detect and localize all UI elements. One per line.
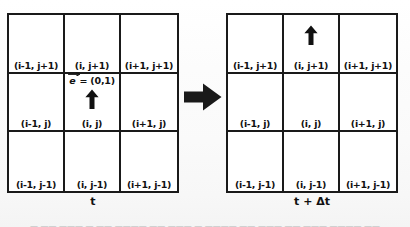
lattice-cell[interactable]: (i+1, j) (121, 74, 177, 133)
cell-label: (i-1, j-1) (228, 179, 282, 190)
cell-label: (i-1, j) (9, 118, 63, 129)
time-caption-after: t + Δt (226, 195, 398, 208)
lattice-cell[interactable]: (i-1, j-1) (9, 132, 65, 191)
lattice-cell[interactable]: (i+1, j+1) (340, 15, 396, 74)
lattice-cell[interactable]: (i+1, j) (340, 74, 396, 133)
cell-label: (i+1, j-1) (121, 179, 177, 190)
lattice-grid-after: (i-1, j+1) (i, j+1) (i+1, j+1) (i-1, j) … (226, 13, 398, 193)
lattice-cell-streamed[interactable]: (i, j+1) (284, 15, 340, 74)
lattice-cell[interactable]: (i+1, j+1) (121, 15, 177, 74)
lattice-cell[interactable]: (i-1, j) (228, 74, 284, 133)
cell-label: (i, j) (65, 118, 119, 129)
cell-label: (i+1, j+1) (340, 60, 396, 71)
cell-label: (i+1, j-1) (340, 179, 396, 190)
cell-label: (i-1, j-1) (9, 179, 63, 190)
lattice-cell[interactable]: (i-1, j-1) (228, 132, 284, 191)
cell-label: (i+1, j+1) (121, 60, 177, 71)
cell-label: (i, j) (284, 118, 338, 129)
cell-label: (i, j+1) (284, 60, 338, 71)
lattice-cell[interactable]: (i-1, j) (9, 74, 65, 133)
cell-label: (i, j-1) (284, 179, 338, 190)
cell-label: (i+1, j) (340, 118, 396, 129)
lattice-cell[interactable]: (i, j+1) (65, 15, 121, 74)
cell-label: (i-1, j+1) (9, 60, 63, 71)
cell-label: (i, j+1) (65, 60, 119, 71)
vector-equals: = (79, 75, 87, 86)
figure-canvas: (i-1, j+1) (i, j+1) (i+1, j+1) (i-1, j) … (0, 0, 410, 227)
time-caption-before: t (7, 195, 179, 208)
cell-label: (i-1, j) (228, 118, 282, 129)
right-arrow-icon (184, 82, 222, 112)
lattice-cell[interactable]: (i, j-1) (65, 132, 121, 191)
cell-label: (i-1, j+1) (228, 60, 282, 71)
lattice-cell[interactable]: (i-1, j+1) (228, 15, 284, 74)
lattice-cell[interactable]: (i-1, j+1) (9, 15, 65, 74)
cell-label: (i+1, j) (121, 118, 177, 129)
lattice-cell-center[interactable]: e = (0,1) (i, j) (65, 74, 121, 133)
figure-caption-cropped: — —— ——— — —— ———— —— ——— — ———— —— ——— … (0, 218, 410, 227)
up-arrow-icon (84, 88, 100, 110)
cell-label: (i, j-1) (65, 179, 119, 190)
lattice-cell[interactable]: (i, j-1) (284, 132, 340, 191)
vector-symbol: e (69, 75, 76, 86)
lattice-cell[interactable]: (i+1, j-1) (340, 132, 396, 191)
vector-value: (0,1) (90, 75, 115, 86)
lattice-grid-before: (i-1, j+1) (i, j+1) (i+1, j+1) (i-1, j) … (7, 13, 179, 193)
lattice-cell[interactable]: (i+1, j-1) (121, 132, 177, 191)
vector-arrow-accent-icon (68, 72, 82, 76)
lattice-cell-center[interactable]: (i, j) (284, 74, 340, 133)
up-arrow-icon (303, 24, 319, 46)
velocity-vector-label: e = (0,1) (65, 75, 119, 86)
